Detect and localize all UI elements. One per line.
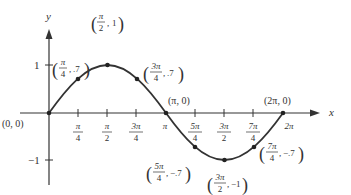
x-tick-5pi4-num: 5π (190, 121, 200, 131)
svg-text:7π: 7π (267, 141, 277, 151)
svg-text:.7: .7 (167, 68, 174, 78)
label-pi4: ( π 4 , .7 ) (52, 57, 90, 81)
x-tick-3pi4-den: 4 (134, 133, 139, 143)
svg-text:): ) (178, 64, 184, 85)
svg-text:(: ( (52, 60, 58, 81)
svg-text:4: 4 (154, 73, 159, 83)
y-axis-label: y (45, 10, 51, 22)
svg-text:4: 4 (270, 153, 275, 163)
svg-text:−1: −1 (231, 179, 241, 189)
x-tick-pi4-num: π (76, 121, 81, 131)
x-tick-pi2-num: π (105, 121, 110, 131)
point-origin (47, 111, 52, 116)
label-5pi4: ( 5π 4 , −.7 ) (146, 161, 191, 185)
svg-text:): ) (118, 14, 124, 35)
svg-text:(: ( (146, 164, 152, 185)
x-tick-2pi: 2π (284, 121, 294, 131)
svg-text:−.7: −.7 (283, 148, 295, 158)
label-3pi4: ( 3π 4 , .7 ) (143, 61, 184, 85)
x-tick-7pi4-den: 4 (251, 133, 256, 143)
svg-text:,: , (69, 64, 71, 74)
label-origin: (0, 0) (2, 118, 24, 130)
svg-text:(: ( (91, 14, 97, 35)
svg-text:,: , (279, 148, 281, 158)
x-axis-label: x (328, 106, 334, 118)
y-tick-1: 1 (34, 59, 40, 71)
y-axis-arrow-icon (46, 29, 53, 39)
point-pi4 (76, 77, 81, 82)
x-tick-7pi4-num: 7π (248, 121, 258, 131)
svg-text:,: , (163, 68, 165, 78)
svg-text:): ) (84, 60, 90, 81)
svg-text:−.7: −.7 (170, 168, 182, 178)
point-pi (164, 111, 169, 116)
svg-text:,: , (107, 18, 109, 28)
point-2pi (281, 111, 286, 116)
sine-graph: x y 1 −1 π 4 π 2 3π 4 π 5π 4 3π 2 7π 4 2… (0, 0, 351, 195)
label-pi2: ( π 2 , 1 ) (91, 11, 124, 35)
svg-text:.7: .7 (73, 64, 80, 74)
y-tick-neg1: −1 (28, 154, 40, 166)
point-5pi4 (193, 145, 198, 150)
label-pi: (π, 0) (168, 95, 190, 107)
svg-text:(: ( (143, 64, 149, 85)
svg-text:π: π (61, 57, 66, 67)
svg-text:(: ( (207, 175, 213, 195)
x-tick-3pi4-num: 3π (130, 121, 141, 131)
x-tick-pi4-den: 4 (76, 133, 81, 143)
svg-text:1: 1 (112, 18, 117, 28)
x-axis-arrow-icon (310, 110, 320, 117)
svg-text:5π: 5π (154, 161, 164, 171)
svg-text:,: , (166, 168, 168, 178)
x-tick-pi2-den: 2 (105, 133, 110, 143)
x-tick-pi: π (163, 121, 168, 131)
svg-text:): ) (298, 144, 304, 165)
point-3pi2 (222, 158, 227, 163)
svg-text:3π: 3π (150, 61, 161, 71)
svg-text:π: π (99, 11, 104, 21)
svg-text:(: ( (259, 144, 265, 165)
svg-text:4: 4 (61, 69, 66, 79)
point-7pi4 (252, 145, 257, 150)
svg-text:3π: 3π (214, 172, 225, 182)
svg-text:2: 2 (218, 184, 223, 194)
label-2pi: (2π, 0) (264, 95, 291, 107)
svg-text:,: , (227, 179, 229, 189)
point-3pi4 (135, 77, 140, 82)
svg-text:4: 4 (157, 173, 162, 183)
x-tick-3pi2-den: 2 (222, 133, 227, 143)
label-3pi2: ( 3π 2 , −1 ) (207, 172, 248, 195)
x-tick-5pi4-den: 4 (193, 133, 198, 143)
svg-text:2: 2 (99, 23, 104, 33)
label-7pi4: ( 7π 4 , −.7 ) (259, 141, 304, 165)
point-pi2 (105, 63, 110, 68)
svg-text:): ) (185, 164, 191, 185)
svg-text:): ) (242, 175, 248, 195)
x-tick-3pi2-num: 3π (218, 121, 229, 131)
